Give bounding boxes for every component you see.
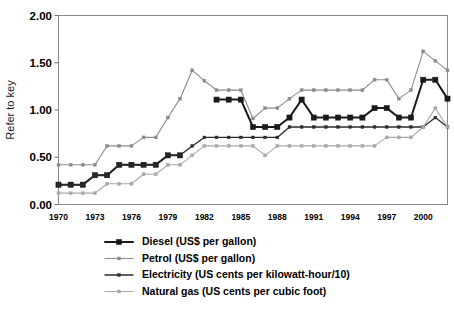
data-point-marker [116, 239, 121, 244]
y-axis-label: Refer to key [4, 80, 16, 140]
data-point-marker [154, 136, 157, 139]
data-point-marker [130, 163, 133, 166]
chart-background [0, 0, 454, 314]
x-tick-label: 1997 [377, 212, 396, 222]
data-point-marker [312, 89, 315, 92]
data-point-marker [142, 136, 145, 139]
data-point-marker [118, 274, 121, 277]
data-point-marker [57, 183, 60, 186]
data-point-marker [408, 115, 413, 120]
data-point-marker [445, 96, 450, 101]
data-point-marker [191, 154, 194, 157]
data-point-marker [434, 59, 437, 62]
x-tick-label: 1988 [268, 212, 287, 222]
data-point-marker [81, 192, 84, 195]
data-point-marker [410, 89, 413, 92]
data-point-marker [154, 173, 157, 176]
data-point-marker [348, 115, 353, 120]
data-point-marker [142, 163, 145, 166]
data-point-marker [191, 145, 194, 148]
data-point-marker [106, 174, 109, 177]
data-point-marker [372, 106, 377, 111]
data-point-marker [93, 192, 96, 195]
data-point-marker [335, 115, 340, 120]
data-point-marker [239, 144, 242, 147]
data-point-marker [384, 106, 389, 111]
data-point-marker [264, 107, 267, 110]
data-point-marker [167, 154, 170, 157]
data-point-marker [93, 163, 96, 166]
data-point-marker [263, 124, 268, 129]
data-point-marker [252, 136, 255, 139]
data-point-marker [300, 89, 303, 92]
legend-item-3[interactable]: Electricity (US cents per kilowatt-hour/… [105, 268, 350, 280]
x-tick-label: 1979 [158, 212, 177, 222]
data-point-marker [166, 163, 169, 166]
data-point-marker [349, 144, 352, 147]
data-point-marker [179, 154, 182, 157]
data-point-marker [238, 97, 243, 102]
legend-label: Petrol (US$ per gallon) [142, 252, 255, 264]
data-point-marker [227, 144, 230, 147]
data-point-marker [203, 79, 206, 82]
data-point-marker [252, 117, 255, 120]
data-point-marker [323, 115, 328, 120]
data-point-marker [118, 257, 121, 260]
y-tick-label: 2.00 [30, 10, 52, 22]
data-point-marker [239, 89, 242, 92]
y-tick-label: 0.50 [30, 151, 52, 163]
data-point-marker [215, 89, 218, 92]
data-point-marker [312, 144, 315, 147]
data-point-marker [227, 136, 230, 139]
data-point-marker [299, 97, 304, 102]
data-point-marker [166, 116, 169, 119]
data-point-marker [227, 89, 230, 92]
data-point-marker [130, 144, 133, 147]
data-point-marker [264, 136, 267, 139]
data-point-marker [276, 144, 279, 147]
data-point-marker [446, 69, 449, 72]
data-point-marker [191, 69, 194, 72]
data-point-marker [275, 124, 280, 129]
data-point-marker [396, 115, 401, 120]
data-point-marker [215, 144, 218, 147]
data-point-marker [300, 126, 303, 129]
data-point-marker [239, 136, 242, 139]
data-point-marker [142, 173, 145, 176]
data-point-marker [373, 144, 376, 147]
data-point-marker [324, 89, 327, 92]
data-point-marker [57, 192, 60, 195]
data-point-marker [57, 163, 60, 166]
data-point-marker [203, 136, 206, 139]
data-point-marker [324, 144, 327, 147]
data-point-marker [410, 136, 413, 139]
line-chart: Refer to key 0.000.501.001.502.00 197019… [0, 0, 454, 314]
data-point-marker [179, 163, 182, 166]
data-point-marker [154, 163, 157, 166]
data-point-marker [69, 183, 72, 186]
y-tick-label: 1.50 [30, 57, 52, 69]
data-point-marker [385, 126, 388, 129]
legend-label: Diesel (US$ per gallon) [142, 235, 256, 247]
data-point-marker [106, 144, 109, 147]
data-point-marker [288, 126, 291, 129]
chart-figure: Refer to key 0.000.501.001.502.00 197019… [0, 0, 454, 314]
data-point-marker [361, 126, 364, 129]
y-tick-label: 0.00 [30, 199, 52, 211]
data-point-marker [288, 97, 291, 100]
data-point-marker [433, 77, 438, 82]
x-tick-label: 1985 [231, 212, 250, 222]
data-point-marker [312, 126, 315, 129]
legend-label: Natural gas (US cents per cubic foot) [142, 285, 326, 297]
data-point-marker [287, 115, 292, 120]
data-point-marker [203, 144, 206, 147]
data-point-marker [422, 126, 425, 129]
data-point-marker [373, 126, 376, 129]
x-tick-label: 1970 [49, 212, 68, 222]
data-point-marker [106, 182, 109, 185]
data-point-marker [325, 126, 328, 129]
data-point-marker [421, 77, 426, 82]
data-point-marker [361, 89, 364, 92]
data-point-marker [250, 124, 255, 129]
data-point-marker [179, 97, 182, 100]
